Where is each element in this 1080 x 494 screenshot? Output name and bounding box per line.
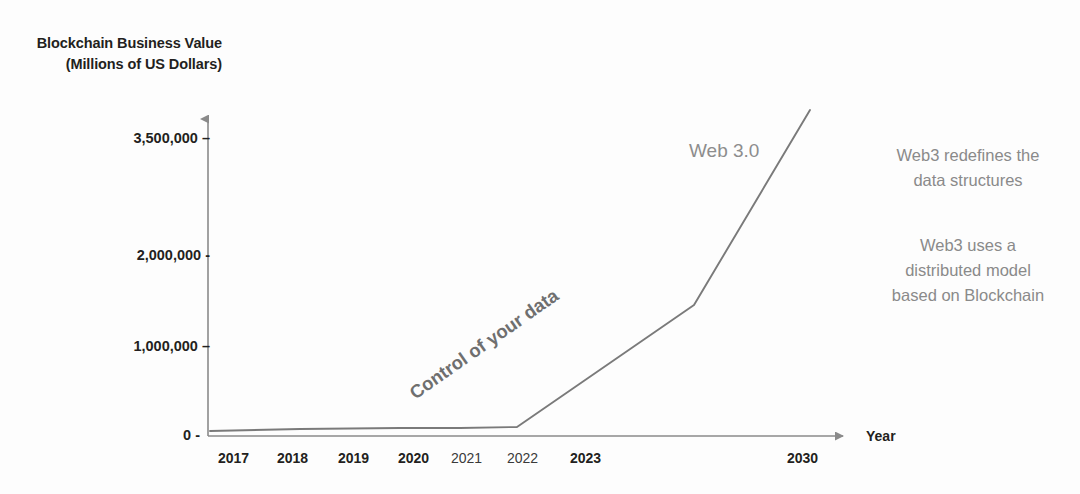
y-tick-3500000-value: 3,500,000: [133, 130, 198, 146]
y-tick-3500000-dash: –: [198, 130, 210, 146]
y-tick-0-value: 0: [183, 427, 191, 443]
annotation-web3-redefines: Web3 redefines the data structures: [868, 143, 1068, 193]
y-tick-2000000: 2,000,000-: [60, 247, 210, 263]
y-tick-1000000: 1,000,000–: [60, 338, 210, 354]
y-tick-3500000: 3,500,000–: [60, 130, 210, 146]
x-tick-2021: 2021: [451, 450, 482, 466]
y-tick-2000000-value: 2,000,000: [137, 247, 202, 263]
y-tick-1000000-value: 1,000,000: [133, 338, 198, 354]
y-tick-1000000-dash: –: [198, 338, 210, 354]
blockchain-business-value-chart: Blockchain Business Value (Millions of U…: [0, 0, 1080, 494]
y-tick-0: 0-: [60, 427, 200, 443]
x-tick-2022: 2022: [507, 450, 538, 466]
x-tick-2017: 2017: [218, 450, 249, 466]
y-tick-0-dash: -: [191, 427, 200, 443]
series-label-web3: Web 3.0: [689, 140, 759, 162]
x-axis-title: Year: [866, 428, 896, 444]
x-tick-2019: 2019: [338, 450, 369, 466]
y-tick-2000000-dash: -: [201, 247, 210, 263]
x-tick-2018: 2018: [277, 450, 308, 466]
x-tick-2020: 2020: [398, 450, 429, 466]
x-tick-2023: 2023: [570, 450, 601, 466]
annotation-web3-distributed-model: Web3 uses a distributed model based on B…: [866, 233, 1070, 307]
x-tick-2030: 2030: [787, 450, 818, 466]
